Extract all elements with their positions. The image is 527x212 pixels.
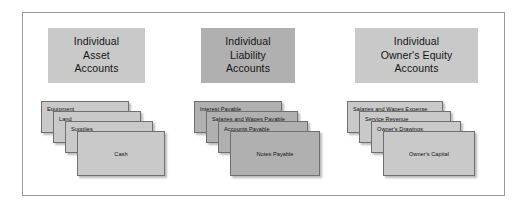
account-card-label: Notes Payable bbox=[231, 151, 319, 158]
header-line: Individual bbox=[225, 35, 270, 49]
column-assets: Individual Asset Accounts Equipment Land… bbox=[23, 13, 188, 195]
account-card: Owner's Capital bbox=[383, 131, 475, 176]
header-box-liabilities: Individual Liability Accounts bbox=[201, 28, 295, 83]
header-line: Owner's Equity bbox=[381, 49, 453, 63]
header-line: Accounts bbox=[395, 62, 439, 76]
column-owners-equity: Individual Owner's Equity Accounts Salar… bbox=[333, 13, 506, 195]
diagram-frame: Individual Asset Accounts Equipment Land… bbox=[22, 12, 505, 196]
header-line: Accounts bbox=[226, 62, 270, 76]
account-card-label: Cash bbox=[78, 151, 164, 158]
header-line: Accounts bbox=[75, 62, 119, 76]
header-line: Asset bbox=[83, 49, 110, 63]
header-box-owners-equity: Individual Owner's Equity Accounts bbox=[355, 28, 478, 83]
account-card: Notes Payable bbox=[230, 131, 320, 176]
header-line: Individual bbox=[394, 35, 439, 49]
account-card-label: Owner's Capital bbox=[384, 151, 474, 158]
column-liabilities: Individual Liability Accounts Interest P… bbox=[178, 13, 343, 195]
account-card: Cash bbox=[77, 131, 165, 176]
header-line: Liability bbox=[230, 49, 266, 63]
header-box-assets: Individual Asset Accounts bbox=[48, 28, 145, 83]
header-line: Individual bbox=[74, 35, 119, 49]
